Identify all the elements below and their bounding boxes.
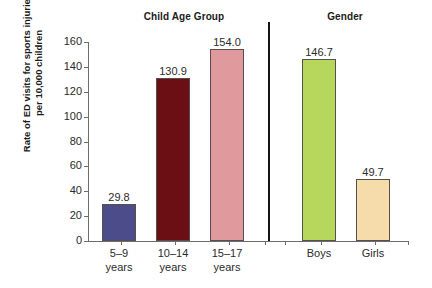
y-axis-tick xyxy=(84,241,88,242)
y-axis-tick-label: 120 xyxy=(64,85,82,97)
bar-value-label: 49.7 xyxy=(362,166,383,178)
y-axis-tick-label: 60 xyxy=(70,159,82,171)
x-axis-tick xyxy=(321,241,322,245)
y-axis-tick xyxy=(84,67,88,68)
x-axis-tick xyxy=(229,241,230,245)
panel-title-gender: Gender xyxy=(290,11,400,22)
y-axis-tick xyxy=(84,216,88,217)
y-axis-tick xyxy=(84,92,88,93)
bar-chart: Child Age Group Gender Rate of ED visits… xyxy=(0,0,432,288)
bar-value-label: 154.0 xyxy=(213,36,241,48)
y-axis-label: Rate of ED visits for sports injuries pe… xyxy=(21,0,46,152)
x-axis-tick xyxy=(121,241,122,245)
bar: 29.8 xyxy=(102,204,136,241)
x-axis-category-label: Girls xyxy=(343,247,403,261)
panel-title-age-group: Child Age Group xyxy=(100,11,268,22)
y-axis-tick xyxy=(84,191,88,192)
y-axis-tick-label: 140 xyxy=(64,60,82,72)
x-axis-tick xyxy=(408,241,409,245)
y-axis-label-wrapper: Rate of ED visits for sports injuries pe… xyxy=(16,0,50,168)
bar-value-label: 29.8 xyxy=(108,191,129,203)
y-axis-tick-label: 20 xyxy=(70,209,82,221)
x-axis-tick xyxy=(175,241,176,245)
panel-divider xyxy=(268,22,270,241)
plot-area: 020406080100120140160 29.8130.9154.0146.… xyxy=(88,42,408,241)
y-axis-line xyxy=(88,42,89,241)
bar-value-label: 130.9 xyxy=(159,65,187,77)
x-axis-tick xyxy=(285,241,286,245)
x-axis-category-label: Boys xyxy=(289,247,349,261)
bar: 154.0 xyxy=(210,49,244,241)
y-axis-tick xyxy=(84,142,88,143)
y-axis-tick-label: 80 xyxy=(70,135,82,147)
x-axis-tick xyxy=(265,241,266,245)
x-axis-tick xyxy=(375,241,376,245)
y-axis-tick xyxy=(84,117,88,118)
bar-value-label: 146.7 xyxy=(305,46,333,58)
bar: 146.7 xyxy=(302,59,336,241)
bar: 49.7 xyxy=(356,179,390,241)
y-axis-tick-label: 100 xyxy=(64,110,82,122)
bar: 130.9 xyxy=(156,78,190,241)
y-axis-tick-label: 40 xyxy=(70,184,82,196)
y-axis-tick-label: 160 xyxy=(64,35,82,47)
x-axis-category-label: 10–14 years xyxy=(143,247,203,274)
x-axis-category-label: 15–17 years xyxy=(197,247,257,274)
y-axis-tick xyxy=(84,42,88,43)
y-axis-tick xyxy=(84,166,88,167)
x-axis-category-label: 5–9 years xyxy=(89,247,149,274)
y-axis-tick-label: 0 xyxy=(76,234,82,246)
x-axis-line xyxy=(88,241,408,242)
